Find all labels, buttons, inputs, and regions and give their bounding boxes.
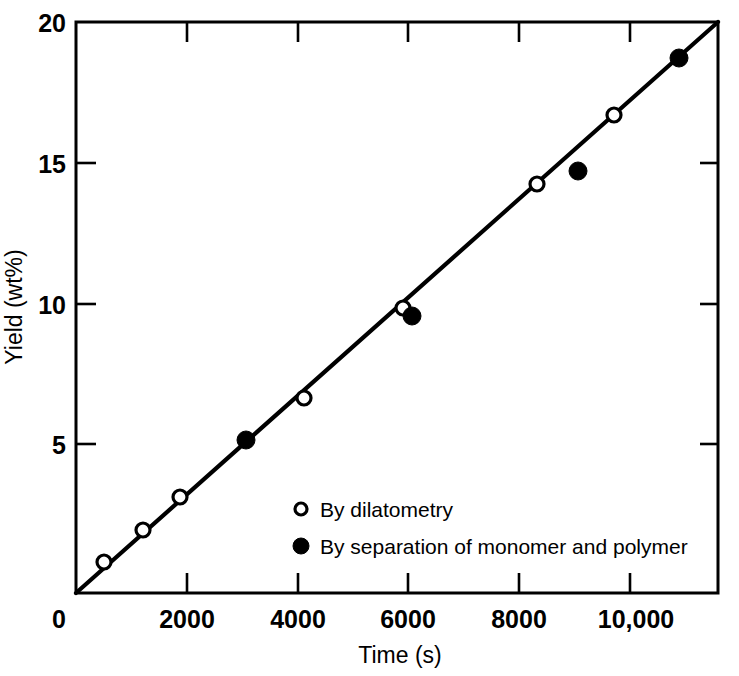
data-point-open xyxy=(97,555,111,569)
data-point-filled xyxy=(237,431,255,449)
data-point-open xyxy=(297,391,311,405)
x-tick-label-2000: 2000 xyxy=(159,605,215,633)
yield-vs-time-scatter-plot: 20 15 10 5 0 2000 4000 6000 8000 10,000 … xyxy=(0,0,739,676)
legend-open-circle-icon xyxy=(295,503,307,515)
y-tick-labels: 20 15 10 5 0 xyxy=(38,9,66,633)
y-tick-label-10: 10 xyxy=(38,291,66,319)
data-point-open xyxy=(607,108,621,122)
x-tick-label-10000: 10,000 xyxy=(598,605,674,633)
x-tick-labels: 2000 4000 6000 8000 10,000 xyxy=(159,605,674,633)
data-point-open xyxy=(530,177,544,191)
y-tick-label-20: 20 xyxy=(38,9,66,37)
y-tick-label-0: 0 xyxy=(52,605,66,633)
chart-legend: By dilatometry By separation of monomer … xyxy=(293,498,688,558)
x-tick-label-6000: 6000 xyxy=(380,605,436,633)
data-point-open xyxy=(136,523,150,537)
y-tick-label-15: 15 xyxy=(38,150,66,178)
legend-label-dilatometry: By dilatometry xyxy=(320,498,454,521)
data-point-filled xyxy=(670,49,688,67)
y-tick-label-5: 5 xyxy=(52,431,66,459)
legend-filled-circle-icon xyxy=(293,538,309,554)
data-point-filled xyxy=(403,307,421,325)
x-tick-label-4000: 4000 xyxy=(270,605,326,633)
data-point-open xyxy=(173,490,187,504)
legend-label-separation: By separation of monomer and polymer xyxy=(320,535,688,558)
x-axis-title: Time (s) xyxy=(358,642,441,668)
data-point-filled xyxy=(569,162,587,180)
chart-figure: 20 15 10 5 0 2000 4000 6000 8000 10,000 … xyxy=(0,0,739,676)
y-axis-title: Yield (wt%) xyxy=(1,249,27,364)
x-tick-label-8000: 8000 xyxy=(491,605,547,633)
